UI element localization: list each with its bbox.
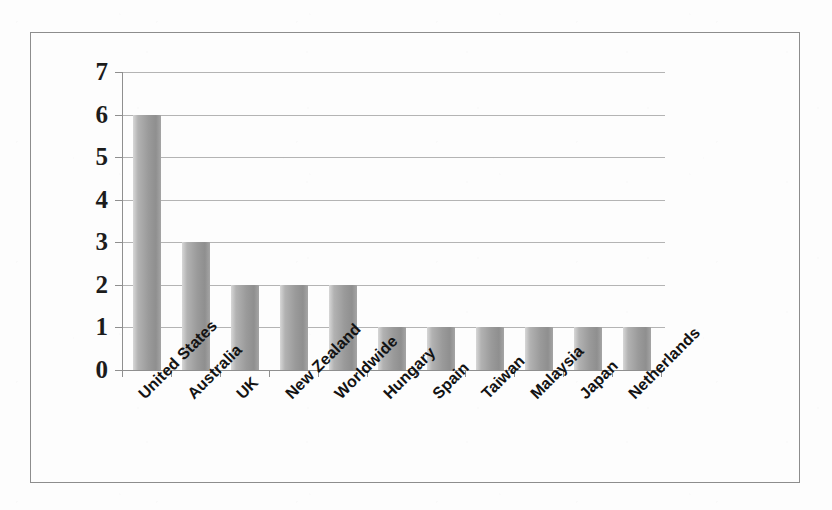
gridline-5 [122,157,665,158]
y-axis-label-0: 0 [74,357,108,382]
y-axis-tick-2 [115,285,122,286]
y-axis-tick-3 [115,242,122,243]
bar-new-zealand[interactable] [280,285,308,370]
gridline-7 [122,72,665,73]
y-axis-tick-7 [115,72,122,73]
y-axis-label-2: 2 [74,272,108,297]
y-axis-label-7: 7 [74,59,108,84]
x-axis-tick-0 [122,370,123,377]
chart-page: 76543210 United StatesAustraliaUKNew Zea… [0,0,832,510]
x-axis-tick-3 [269,370,270,377]
y-axis-tick-5 [115,157,122,158]
y-axis-label-6: 6 [74,102,108,127]
y-axis-tick-0 [115,370,122,371]
y-axis-tick-4 [115,200,122,201]
y-axis-tick-1 [115,327,122,328]
gridline-4 [122,200,665,201]
gridline-6 [122,115,665,116]
bar-united-states[interactable] [133,115,161,370]
value-axis-line [122,72,123,371]
bar-taiwan[interactable] [476,327,504,370]
y-axis-labels-group: 76543210 [70,0,108,510]
bar-malaysia[interactable] [525,327,553,370]
y-axis-tick-6 [115,115,122,116]
y-axis-label-1: 1 [74,314,108,339]
y-axis-label-3: 3 [74,229,108,254]
bar-netherlands[interactable] [623,327,651,370]
y-axis-label-4: 4 [74,187,108,212]
y-axis-label-5: 5 [74,144,108,169]
